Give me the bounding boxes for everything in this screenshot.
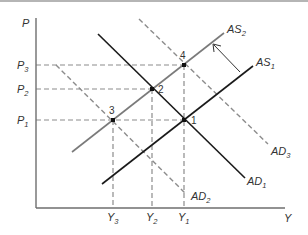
point-1-marker — [182, 118, 186, 122]
point-3-label: 3 — [109, 105, 115, 116]
point-4-marker — [182, 63, 186, 67]
p1-label: P1 — [17, 114, 29, 129]
x-axis-label: Y — [284, 212, 292, 224]
as1-label: AS1 — [255, 56, 275, 71]
point-4-label: 4 — [180, 50, 186, 61]
point-3-marker — [111, 118, 115, 122]
ad2-curve — [56, 65, 186, 194]
y1-label: Y1 — [178, 211, 190, 226]
p3-label: P3 — [17, 59, 29, 74]
ad1-curve — [98, 34, 245, 178]
shift-arrow-icon — [213, 44, 240, 72]
as2-label: AS2 — [226, 23, 247, 38]
y-axis-label: P — [22, 17, 30, 29]
point-2-marker — [150, 87, 154, 91]
point-1-label: 1 — [191, 115, 197, 126]
point-2-label: 2 — [158, 84, 164, 95]
ad3-curve — [139, 19, 268, 144]
as1-curve — [102, 66, 253, 184]
ad3-label: AD3 — [270, 145, 291, 160]
ad2-label: AD2 — [190, 190, 211, 205]
y2-label: Y2 — [146, 211, 158, 226]
ad-as-diagram: 1 2 3 4 P Y P3 P2 P1 Y3 Y2 Y1 AS2 AS1 AD… — [0, 0, 308, 235]
ad1-label: AD1 — [246, 175, 266, 190]
y3-label: Y3 — [107, 211, 119, 226]
p2-label: P2 — [17, 83, 29, 98]
